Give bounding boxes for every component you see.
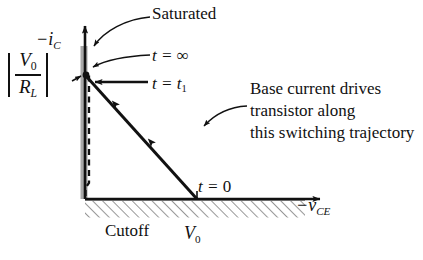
t-equals-t1-label: t = t1 [152,75,187,95]
note-line-1: Base current drives [250,78,414,100]
note-leader-arrow [204,106,247,126]
note-line-2: transistor along [250,100,414,122]
cutoff-label: Cutoff [105,222,149,239]
cutoff-hatched-band [85,201,305,218]
saturated-leader-arrow [94,17,150,46]
switching-trajectory-figure: V0 RL −iC −vCE Saturated t = ∞ t = t1 t … [0,0,423,260]
fraction-numerator: V0 [19,50,37,74]
trajectory-note: Base current drives transistor along thi… [250,78,414,143]
t-infinity-label: t = ∞ [152,47,189,64]
v0-axis-value-label: V0 [184,224,201,245]
t-equals-zero-label: t = 0 [198,178,231,195]
current-level-leader-arrow [72,76,81,81]
abs-bar-right [46,53,48,97]
x-axis-label: −vCE [296,196,330,217]
v0-over-rl-fraction: V0 RL [10,50,46,100]
saturated-label: Saturated [152,5,216,22]
current-level-label: V0 RL [8,52,48,98]
t-infinity-leader-arrow [93,55,150,67]
operating-point-marker [83,72,90,79]
note-line-3: this switching trajectory [250,122,414,144]
y-axis-label: −iC [36,30,61,51]
fraction-denominator: RL [19,76,37,100]
